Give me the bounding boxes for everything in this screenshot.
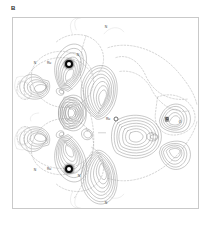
edge-label-bottom: N	[105, 201, 107, 205]
positive-contour-group	[15, 18, 191, 208]
edge-label-upper-left: N	[34, 61, 36, 65]
atom-marker-center	[114, 117, 119, 122]
contour-plot-canvas	[13, 18, 198, 208]
figure-root: B	[0, 0, 217, 227]
edge-label-lower-node: N	[78, 174, 80, 178]
edge-label-right: O	[179, 120, 182, 124]
atom-label-center: Ru	[106, 117, 110, 121]
contour-plot-frame: Ru Ru Ru C N N N N N N O	[12, 17, 199, 209]
atom-label-upper-left: Ru	[47, 61, 51, 65]
atom-marker-upper-left	[65, 60, 73, 68]
edge-label-lower-left: N	[34, 168, 36, 172]
panel-label: B	[11, 4, 15, 12]
atom-label-lower-left: Ru	[47, 167, 51, 171]
edge-label-top: N	[105, 25, 107, 29]
atom-label-right: C	[165, 117, 169, 122]
edge-label-upper-node: N	[77, 53, 79, 57]
atom-marker-lower-left	[65, 165, 73, 173]
